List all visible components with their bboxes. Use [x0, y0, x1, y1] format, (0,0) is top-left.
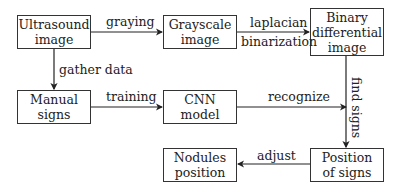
node-label: model: [181, 107, 220, 122]
node-label: Nodules: [174, 150, 226, 165]
node-manual-signs: Manual signs: [17, 90, 91, 124]
node-label: of signs: [322, 165, 371, 180]
edge-label-laplacian: laplacian: [250, 16, 307, 30]
node-label: image: [328, 40, 367, 55]
edge-label-recognize: recognize: [268, 90, 330, 104]
node-label: CNN: [184, 92, 215, 107]
node-grayscale-image: Grayscale image: [163, 15, 237, 49]
edge-label-gather-data: gather data: [59, 63, 133, 77]
node-label: Binary: [326, 10, 368, 25]
node-label: differential: [312, 25, 382, 40]
node-label: image: [181, 32, 220, 47]
node-label: position: [175, 165, 226, 180]
node-label: Ultrasound: [18, 17, 89, 32]
node-label: signs: [38, 107, 71, 122]
edge-label-binarization: binarization: [241, 35, 317, 49]
node-label: Grayscale: [169, 17, 232, 32]
node-ultrasound-image: Ultrasound image: [17, 15, 91, 49]
edge-label-find-signs: find signs: [349, 77, 364, 138]
edge-label-graying: graying: [106, 15, 155, 29]
node-binary-differential-image: Binary differential image: [310, 8, 384, 56]
edge-label-training: training: [106, 90, 157, 104]
node-position-of-signs: Position of signs: [310, 148, 384, 182]
node-label: Manual: [30, 92, 78, 107]
node-label: Position: [322, 150, 372, 165]
node-cnn-model: CNN model: [163, 90, 237, 124]
edge-label-adjust: adjust: [257, 149, 296, 163]
node-nodules-position: Nodules position: [163, 148, 237, 182]
node-label: image: [35, 32, 74, 47]
